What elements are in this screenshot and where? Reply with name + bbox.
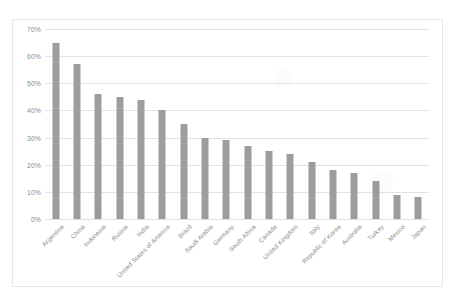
y-axis-tick-label: 60% (27, 53, 41, 60)
x-axis-tick-label: India (135, 223, 150, 238)
bar-slot (258, 29, 279, 219)
y-axis-tick-label: 30% (27, 134, 41, 141)
x-axis-tick-label: Japan (410, 223, 427, 240)
bar[interactable] (137, 100, 144, 219)
bar-slot (301, 29, 322, 219)
bar-slot (109, 29, 130, 219)
x-axis-tick-label: China (69, 223, 86, 240)
bar[interactable] (351, 173, 358, 219)
bar-slot (280, 29, 301, 219)
x-axis-tick-label: Turkey (366, 223, 385, 242)
y-axis-tick-label: 40% (27, 107, 41, 114)
bar-slot (173, 29, 194, 219)
bar-slot (66, 29, 87, 219)
x-axis-tick-label: Russia (110, 223, 129, 242)
bar-slot (130, 29, 151, 219)
bar[interactable] (415, 197, 422, 219)
bar[interactable] (159, 110, 166, 219)
x-axis-tick-label: Brazil (176, 223, 193, 240)
bar-slot (45, 29, 66, 219)
bar-slot (322, 29, 343, 219)
bar[interactable] (52, 43, 59, 219)
plot-area: 0%10%20%30%40%50%60%70% (45, 29, 429, 219)
y-axis-tick-label: 50% (27, 80, 41, 87)
y-axis-tick-label: 0% (31, 216, 41, 223)
y-axis-tick-label: 20% (27, 161, 41, 168)
y-axis-tick-label: 10% (27, 188, 41, 195)
bar[interactable] (393, 195, 400, 219)
bar[interactable] (244, 146, 251, 219)
bar[interactable] (265, 151, 272, 219)
bar-slot (216, 29, 237, 219)
bar[interactable] (180, 124, 187, 219)
bar[interactable] (223, 140, 230, 219)
bar[interactable] (116, 97, 123, 219)
x-axis-tick-label: Indonesia (82, 223, 107, 248)
x-axis-tick-label: Mexico (386, 223, 405, 242)
bar[interactable] (201, 138, 208, 219)
y-axis-tick-label: 70% (27, 26, 41, 33)
bar-slot (386, 29, 407, 219)
x-axis-tick-label: Argentina (40, 223, 65, 248)
bar[interactable] (287, 154, 294, 219)
bar-series (45, 29, 429, 219)
bar-slot (194, 29, 215, 219)
bar-slot (88, 29, 109, 219)
bar-slot (152, 29, 173, 219)
bar[interactable] (308, 162, 315, 219)
x-axis-tick-label: Republic of Korea (300, 223, 342, 265)
x-axis-tick-labels: ArgentinaChinaIndonesiaRussiaIndiaUnited… (45, 220, 429, 280)
bar-slot (365, 29, 386, 219)
bar[interactable] (73, 64, 80, 219)
x-axis-tick-label: Italy (307, 223, 320, 236)
bar[interactable] (372, 181, 379, 219)
x-axis-tick-label: Australia (340, 223, 363, 246)
bar[interactable] (95, 94, 102, 219)
bar[interactable] (329, 170, 336, 219)
bar-slot (237, 29, 258, 219)
bar-slot (408, 29, 429, 219)
chart-frame: 0%10%20%30%40%50%60%70% ArgentinaChinaIn… (12, 19, 443, 287)
bar-slot (344, 29, 365, 219)
